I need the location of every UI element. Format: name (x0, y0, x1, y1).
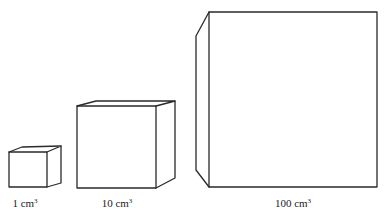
cube-small-top-face (9, 146, 61, 152)
cube-small-right-face (47, 146, 61, 187)
label-small-cube: 1 cm3 (12, 198, 37, 209)
cube-small (9, 146, 61, 187)
cube-medium-right-face (156, 101, 175, 188)
cube-small-front-face (9, 152, 47, 187)
label-small-value: 1 cm (12, 197, 34, 209)
cube-large-left-face (196, 12, 209, 187)
cube-medium (77, 101, 175, 188)
label-medium-exponent: 3 (129, 197, 133, 205)
label-large-value: 100 cm (275, 197, 308, 209)
label-medium-value: 10 cm (102, 197, 129, 209)
cube-diagram (0, 0, 386, 215)
label-large-cube: 100 cm3 (275, 198, 311, 209)
label-large-exponent: 3 (308, 197, 312, 205)
cube-medium-front-face (77, 106, 156, 188)
cube-large (196, 12, 377, 187)
label-small-exponent: 3 (34, 197, 38, 205)
label-medium-cube: 10 cm3 (102, 198, 133, 209)
cube-large-front-face (209, 12, 377, 187)
cube-medium-top-face (77, 101, 175, 106)
